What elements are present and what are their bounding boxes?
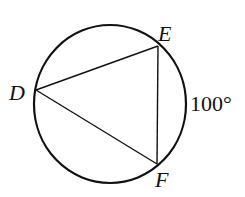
arc-measure-label: 100°: [190, 91, 232, 116]
label-f: F: [154, 167, 169, 192]
chord-de: [36, 46, 158, 90]
chord-ef: [157, 46, 158, 164]
label-d: D: [8, 80, 25, 105]
chord-df: [36, 90, 157, 164]
circle: [34, 25, 186, 183]
label-e: E: [157, 21, 172, 46]
circle-diagram: D E F 100°: [0, 0, 245, 197]
